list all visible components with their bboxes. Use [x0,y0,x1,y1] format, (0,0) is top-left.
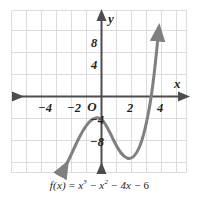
caption-equals: = [66,179,78,191]
x-tick--2: −2 [67,101,81,115]
y-tick--8: −8 [90,135,105,149]
x-tick--4: −4 [38,101,52,115]
caption-term4: 6 [144,179,150,191]
origin-label: O [87,99,97,114]
y-tick-4: 4 [90,58,97,72]
figure-caption: f(x) = x3 − x2 − 4x − 6 [0,178,199,191]
graph-figure: −4 −2 2 4 8 4 −4 −8 O y x f(x) = x3 − x2… [0,0,199,199]
x-tick-4: 4 [156,101,163,115]
x-axis-label: x [173,76,181,91]
y-axis-label: y [106,11,114,26]
y-tick--4: −4 [90,113,104,127]
y-tick-8: 8 [91,36,98,50]
caption-op2: − [108,179,120,191]
caption-op1: − [87,179,99,191]
coordinate-plane: −4 −2 2 4 8 4 −4 −8 O y x [0,0,199,199]
caption-term3: 4x [120,179,131,191]
caption-op3: − [131,179,143,191]
x-tick-2: 2 [126,101,133,115]
